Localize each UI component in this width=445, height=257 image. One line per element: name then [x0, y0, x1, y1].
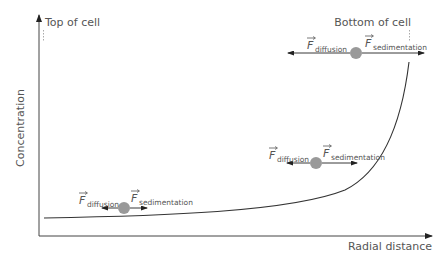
- sedimentation-diagram: Concentration Radial distance Top of cel…: [0, 0, 445, 257]
- sedimentation-label: F sedimentation: [323, 145, 385, 163]
- svg-text:F: F: [323, 147, 330, 160]
- svg-text:diffusion: diffusion: [315, 45, 347, 54]
- sedimentation-label: F sedimentation: [131, 190, 193, 208]
- top-of-cell-label: Top of cell: [44, 16, 100, 29]
- svg-text:diffusion: diffusion: [277, 155, 309, 164]
- svg-text:F: F: [79, 194, 86, 207]
- diffusion-label: F diffusion: [79, 192, 119, 210]
- svg-text:F: F: [131, 192, 138, 205]
- diffusion-label: F diffusion: [307, 37, 347, 55]
- y-axis-label: Concentration: [14, 89, 27, 167]
- svg-text:F: F: [307, 39, 314, 52]
- force-group-bottom-left: F diffusion F sedimentation: [79, 190, 193, 215]
- force-group-middle: F diffusion F sedimentation: [269, 145, 385, 170]
- sedimentation-label: F sedimentation: [365, 35, 427, 53]
- bottom-of-cell-label: Bottom of cell: [334, 16, 411, 29]
- concentration-curve: [44, 62, 409, 218]
- particle-icon: [310, 157, 322, 169]
- svg-text:F: F: [269, 149, 276, 162]
- x-axis-label: Radial distance: [348, 240, 432, 253]
- diffusion-label: F diffusion: [269, 147, 309, 165]
- particle-icon: [350, 47, 362, 59]
- particle-icon: [118, 202, 130, 214]
- svg-text:sedimentation: sedimentation: [139, 198, 193, 207]
- svg-text:sedimentation: sedimentation: [331, 153, 385, 162]
- svg-text:F: F: [365, 37, 372, 50]
- svg-text:diffusion: diffusion: [87, 200, 119, 209]
- svg-text:sedimentation: sedimentation: [373, 43, 427, 52]
- force-group-top-right: F diffusion F sedimentation: [288, 35, 427, 60]
